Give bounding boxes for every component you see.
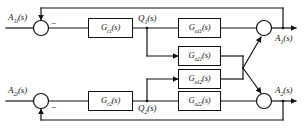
block-go21[interactable]: Go21(s) (178, 46, 221, 66)
wire-go21-to-sum-out2 (243, 68, 261, 93)
block-go11-label: Go11(s) (189, 22, 211, 34)
sum-out-1 (257, 21, 272, 36)
output-label-a1: A1(s) (275, 34, 293, 45)
block-gc2-label: Gc2(s) (101, 95, 120, 107)
minus-sign-sum2: − (51, 103, 56, 112)
wire-go12-to-sum-out1 (243, 37, 261, 68)
block-go12-label: Go12(s) (189, 73, 211, 85)
branch-dot-a1 (282, 27, 285, 30)
block-go11[interactable]: Go11(s) (178, 18, 221, 38)
signal-label-q2: Q2(s) (138, 104, 157, 115)
minus-sign-sum1: − (51, 19, 56, 28)
output-label-a2: A2(s) (275, 86, 293, 97)
signal-label-q1: Q1(s) (138, 14, 157, 25)
block-go21-label: Go21(s) (189, 50, 211, 62)
block-gc2[interactable]: Gc2(s) (88, 91, 133, 111)
input-label-a1i: A1i(s) (8, 13, 27, 24)
branch-dot-q2 (146, 100, 149, 103)
block-go22[interactable]: Go22(s) (178, 91, 221, 111)
branch-dot-q1 (146, 27, 149, 30)
block-gc1-label: Gc1(s) (101, 22, 120, 34)
block-diagram: Gc1(s) Gc2(s) Go11(s) Go21(s) Go12(s) Go… (0, 0, 304, 129)
sum-in-2 (34, 94, 49, 109)
sum-in-1 (34, 21, 49, 36)
block-go12[interactable]: Go12(s) (178, 69, 221, 89)
block-gc1[interactable]: Gc1(s) (88, 18, 133, 38)
block-go22-label: Go22(s) (189, 95, 211, 107)
sum-out-2 (257, 94, 272, 109)
branch-dot-a2 (282, 100, 285, 103)
input-label-a2i: A2i(s) (8, 86, 27, 97)
